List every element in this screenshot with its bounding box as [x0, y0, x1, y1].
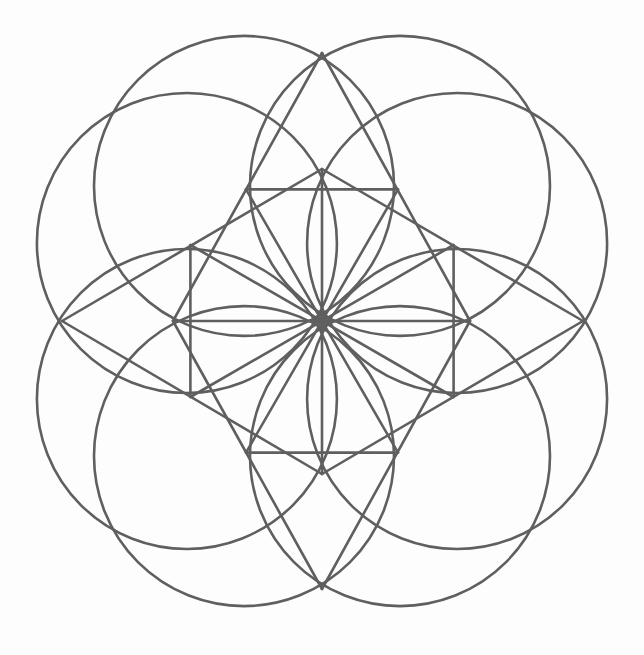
circle-300: [250, 306, 550, 606]
geometric-figure: [0, 0, 644, 655]
circle-30: [307, 93, 607, 393]
drawing-canvas: [0, 0, 644, 655]
lines-group: [62, 53, 583, 589]
circle-330: [307, 249, 607, 549]
circle-240: [94, 306, 394, 606]
